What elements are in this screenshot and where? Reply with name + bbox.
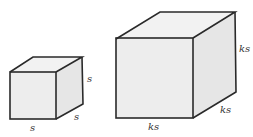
large-cube-front-face xyxy=(116,38,193,118)
small-cube xyxy=(10,57,83,119)
large-cube-depth-label: ks xyxy=(220,104,231,115)
large-cube xyxy=(116,12,236,118)
small-cube-width-label: s xyxy=(30,122,35,133)
small-cube-depth-label: s xyxy=(74,111,79,122)
cubes-diagram: s s s ks ks ks xyxy=(0,0,253,137)
large-cube-width-label: ks xyxy=(148,121,159,132)
small-cube-front-face xyxy=(10,72,56,119)
small-cube-height-label: s xyxy=(87,73,92,84)
large-cube-height-label: ks xyxy=(239,43,250,54)
